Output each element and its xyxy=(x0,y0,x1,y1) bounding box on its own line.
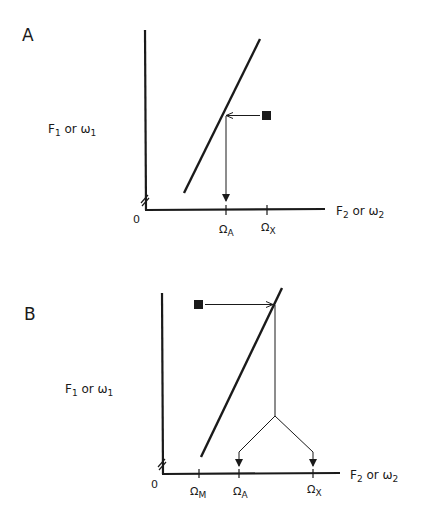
tick-label-omega-x: ΩX xyxy=(261,221,276,236)
y-axis-a xyxy=(145,30,146,210)
panel-b: B F1 or ω1 0 F2 or ω2 ΩM ΩA ΩX xyxy=(24,288,398,500)
y-axis-label-a: F1 or ω1 xyxy=(48,122,96,138)
panel-letter-a: A xyxy=(22,25,34,45)
x-axis-label-a: F2 or ω2 xyxy=(336,204,384,220)
square-marker-a xyxy=(262,111,271,120)
panel-a: A F1 or ω1 0 F2 or ω2 ΩA ΩX xyxy=(22,25,384,238)
diagonal-line-b xyxy=(201,288,282,457)
origin-label-b: 0 xyxy=(151,478,158,491)
y-axis-label-b: F1 or ω1 xyxy=(65,382,113,398)
tick-label-omega-a: ΩA xyxy=(219,223,234,238)
tick-label-omega-x: ΩX xyxy=(307,483,322,498)
y-axis-b xyxy=(162,293,163,474)
branch-arrow-omega-a xyxy=(239,416,275,466)
diagram-canvas: A F1 or ω1 0 F2 or ω2 ΩA ΩX B F1 or ω1 xyxy=(0,0,427,523)
tick-label-omega-a: ΩA xyxy=(233,485,248,500)
x-axis-a xyxy=(145,209,325,210)
origin-label-a: 0 xyxy=(133,213,140,226)
tick-label-omega-m: ΩM xyxy=(190,485,206,500)
figure: A F1 or ω1 0 F2 or ω2 ΩA ΩX B F1 or ω1 xyxy=(0,0,427,523)
x-axis-label-b: F2 or ω2 xyxy=(350,468,398,484)
square-marker-b xyxy=(194,300,203,309)
panel-letter-b: B xyxy=(24,304,36,324)
branch-arrow-omega-x xyxy=(275,416,313,466)
